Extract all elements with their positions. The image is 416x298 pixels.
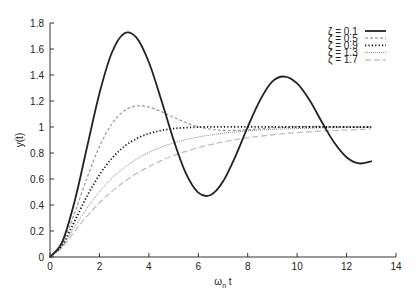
y-tick-label: 1.4 — [30, 70, 44, 81]
legend-item: ζ = 1.7 — [328, 54, 386, 66]
x-tick-label: 14 — [390, 261, 402, 272]
step-response-chart: 02468101214 00.20.40.60.811.21.41.61.8 y… — [0, 0, 416, 298]
x-tick-label: 12 — [341, 261, 353, 272]
y-tick-label: 0.2 — [30, 226, 44, 237]
y-tick-label: 1.8 — [30, 18, 44, 29]
legend-label: ζ = 1.7 — [328, 54, 358, 66]
y-tick-label: 0.6 — [30, 174, 44, 185]
x-tick-label: 6 — [196, 261, 202, 272]
y-tick-label: 0.4 — [30, 200, 44, 211]
x-tick-label: 2 — [97, 261, 103, 272]
y-tick-label: 0.8 — [30, 148, 44, 159]
x-tick-label: 4 — [146, 261, 152, 272]
x-tick-label: 0 — [47, 261, 53, 272]
series-lines — [50, 32, 371, 257]
legend: ζ = 0.1ζ = 0.5ζ = 0.9ζ = 1.3ζ = 1.7 — [328, 26, 386, 67]
y-tick-label: 0 — [38, 252, 44, 263]
x-axis-label: ωn t — [214, 276, 231, 289]
series-line-zeta-0-5 — [50, 106, 371, 257]
x-axis-label-t: t — [226, 276, 232, 287]
series-line-zeta-1-3 — [50, 127, 371, 257]
y-axis-label: y(t) — [14, 133, 25, 147]
series-line-zeta-0-9 — [50, 127, 371, 257]
x-tick-label: 10 — [292, 261, 304, 272]
y-tick-label: 1.2 — [30, 96, 44, 107]
x-ticks: 02468101214 — [47, 253, 402, 272]
x-tick-label: 8 — [245, 261, 251, 272]
y-tick-label: 1 — [38, 122, 44, 133]
y-tick-label: 1.6 — [30, 44, 44, 55]
x-axis-label-omega: ω — [214, 276, 222, 287]
